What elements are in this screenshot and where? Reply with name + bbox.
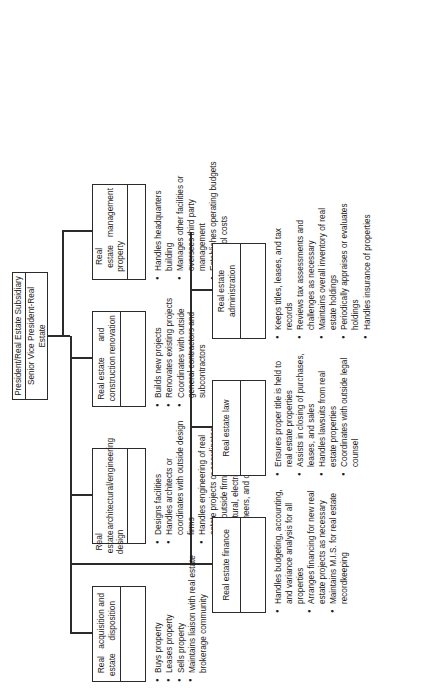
- connector-main-spine: [70, 336, 72, 634]
- unit-box-administration[interactable]: Real estate administration: [212, 243, 266, 339]
- unit-title-line1: Real estate finance: [221, 529, 232, 601]
- unit-box-finance[interactable]: Real estate finance: [212, 517, 266, 613]
- unit-box-acquisition[interactable]: Real estate acquisition and disposition: [92, 586, 146, 682]
- list-item: Maintains overall inventory of real esta…: [318, 203, 340, 339]
- connector-trunk-vertical: [48, 335, 70, 337]
- unit-box-construction[interactable]: Real estate construction and renovation: [92, 311, 146, 407]
- list-item: Handles budgeting, accounting, and varia…: [274, 485, 306, 613]
- list-item: Reviews tax assessments and challenges a…: [296, 203, 318, 339]
- unit-title-administration: Real estate administration: [213, 244, 241, 338]
- list-item: Handles insurance of properties: [363, 203, 374, 339]
- unit-title-line2: management: [105, 188, 116, 237]
- unit-title-line2: and renovation: [96, 315, 117, 354]
- list-item: Coordinates with outside general contrac…: [177, 279, 209, 407]
- connector-drop-design: [70, 494, 92, 496]
- unit-subcell-property-management: [128, 185, 146, 279]
- unit-title-construction: Real estate construction and renovation: [93, 312, 121, 406]
- header-row-president: President/Real Estate Subsidiary: [13, 273, 26, 399]
- bullet-list-construction: Builds new projects Renovates existing p…: [154, 279, 210, 407]
- list-item: Renovates existing projects: [165, 279, 176, 407]
- list-item: Coordinates with outside legal counsel: [340, 348, 362, 476]
- unit-box-design[interactable]: Real estate design architectural/enginee…: [92, 448, 146, 544]
- bullet-list-administration: Keeps titles, leases, and tax records Re…: [274, 203, 374, 339]
- list-item: Handles lawsuits from real estate proper…: [318, 348, 340, 476]
- unit-title-line1: Real estate property: [94, 237, 126, 276]
- list-item: Designs facilities: [154, 416, 165, 544]
- unit-subcell-law: [241, 381, 265, 475]
- list-item: Assists in closing of purchases, leases,…: [296, 348, 318, 476]
- header-box: President/Real Estate Subsidiary Senior …: [12, 272, 48, 400]
- list-item: Periodically appraises or evaluates hold…: [340, 203, 362, 339]
- list-item: Buys property: [154, 554, 165, 682]
- unit-title-design: Real estate design architectural/enginee…: [93, 449, 128, 543]
- bullet-list-finance: Handles budgeting, accounting, and varia…: [274, 485, 351, 613]
- unit-subcell-administration: [241, 244, 265, 338]
- connector-drop-property-management: [62, 230, 92, 232]
- unit-title-line1: Real estate construction: [96, 354, 117, 403]
- connector-drop-acquisition: [70, 632, 92, 634]
- list-item: Handles architects or coordinates with o…: [165, 416, 197, 544]
- unit-box-law[interactable]: Real estate law: [212, 380, 266, 476]
- unit-title-line1: Real estate: [96, 651, 117, 678]
- unit-title-law: Real estate law: [213, 381, 241, 475]
- unit-title-acquisition: Real estate acquisition and disposition: [93, 587, 121, 681]
- unit-title-line1: Real estate administration: [216, 247, 237, 335]
- list-item: Builds new projects: [154, 279, 165, 407]
- header-row-svp: Senior Vice President-Real Estate: [26, 273, 49, 399]
- unit-title-line2: acquisition and disposition: [96, 590, 117, 651]
- unit-subcell-construction: [121, 312, 145, 406]
- connector-drop-construction: [70, 357, 92, 359]
- list-item: Maintains liaison with real estate broke…: [188, 554, 210, 682]
- list-item: Leases property: [165, 554, 176, 682]
- unit-subcell-finance: [241, 518, 265, 612]
- unit-subcell-design: [128, 449, 146, 543]
- list-item: Keeps titles, leases, and tax records: [274, 203, 296, 339]
- connector-arm-property-management: [62, 231, 64, 337]
- bullet-list-law: Ensures proper title is held to real est…: [274, 348, 363, 476]
- org-chart: President/Real Estate Subsidiary Senior …: [0, 0, 424, 696]
- unit-title-line2: architectural/engineering: [105, 438, 116, 530]
- unit-title-line1: Real estate design: [94, 530, 126, 555]
- bullet-list-acquisition: Buys property Leases property Sells prop…: [154, 554, 210, 682]
- list-item: Manages other facilities or oversees thi…: [176, 160, 208, 280]
- list-item: Sells property: [177, 554, 188, 682]
- rotated-canvas: President/Real Estate Subsidiary Senior …: [0, 0, 424, 696]
- list-item: Maintains M.I.S. for real estate recordk…: [329, 485, 351, 613]
- unit-title-property-management: Real estate property management: [93, 185, 128, 279]
- unit-title-line1: Real estate law: [221, 399, 232, 456]
- unit-subcell-acquisition: [121, 587, 145, 681]
- unit-box-property-management[interactable]: Real estate property management: [92, 184, 146, 280]
- list-item: Handles headquarters building: [154, 160, 176, 280]
- list-item: Arranges financing for new real estate p…: [307, 485, 329, 613]
- unit-title-finance: Real estate finance: [213, 518, 241, 612]
- list-item: Ensures proper title is held to real est…: [274, 348, 296, 476]
